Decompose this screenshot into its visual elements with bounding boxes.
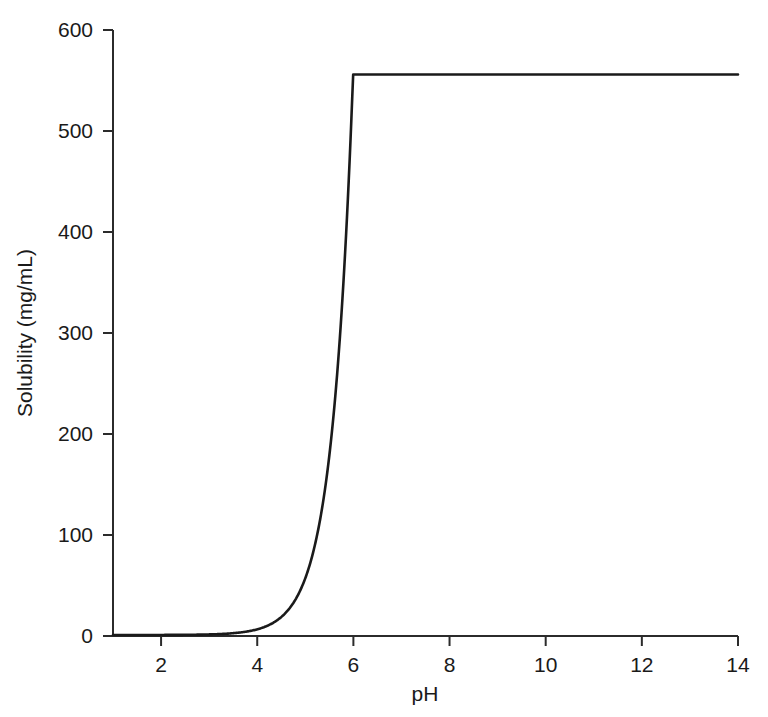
y-tick-label: 600 [58, 18, 93, 41]
y-tick-label: 500 [58, 119, 93, 142]
y-tick-label: 200 [58, 422, 93, 445]
y-tick-label: 300 [58, 321, 93, 344]
chart-canvas: 0100200300400500600 2468101214 pH Solubi… [0, 0, 768, 717]
x-axis-title: pH [412, 682, 439, 705]
y-tick-label: 100 [58, 523, 93, 546]
y-tick-label: 0 [81, 624, 93, 647]
x-tick-label: 4 [251, 653, 263, 676]
x-tick-label: 10 [534, 653, 557, 676]
y-axis-title: Solubility (mg/mL) [13, 249, 36, 417]
pH-solubility-chart: 0100200300400500600 2468101214 pH Solubi… [0, 0, 768, 717]
x-tick-label: 12 [630, 653, 653, 676]
x-tick-label: 6 [348, 653, 360, 676]
x-tick-label: 8 [444, 653, 456, 676]
x-tick-label: 14 [726, 653, 750, 676]
y-tick-label: 400 [58, 220, 93, 243]
x-tick-label: 2 [155, 653, 167, 676]
chart-background [0, 0, 768, 717]
